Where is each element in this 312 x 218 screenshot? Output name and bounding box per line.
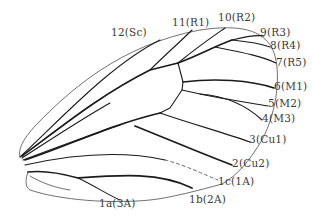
vein-r4 [232, 40, 270, 47]
vein-r345-stem [178, 40, 232, 63]
vein-2a [28, 171, 192, 188]
vein-m1 [183, 80, 274, 88]
vein-r5 [215, 47, 276, 63]
vein-cu-stem [25, 113, 160, 160]
label-m3: 4(M3) [262, 113, 295, 124]
vein-discocellular [160, 63, 183, 113]
vein-basal-1 [22, 103, 110, 158]
vein-r-stem [22, 63, 178, 156]
label-1a: 1c(1A) [218, 176, 254, 187]
label-r5: 7(R5) [276, 57, 306, 68]
vein-3a [30, 176, 70, 190]
vein-sc [20, 40, 160, 157]
label-r2: 10(R2) [218, 12, 255, 23]
label-3a: 1a(3A) [99, 198, 136, 209]
label-cu2: 2(Cu2) [232, 158, 270, 169]
vein-m2 [182, 90, 268, 106]
label-cu1: 3(Cu1) [249, 134, 287, 145]
label-m2: 5(M2) [268, 98, 301, 109]
vein-1a [25, 155, 165, 165]
label-r1: 11(R1) [172, 17, 209, 28]
vein-1a-dashed [165, 160, 218, 180]
vein-cu1 [160, 113, 250, 142]
label-r3: 9(R3) [260, 27, 290, 38]
vein-m3 [200, 94, 262, 120]
label-2a: 1b(2A) [189, 194, 226, 205]
label-sc: 12(Sc) [111, 27, 147, 38]
label-m1: 6(M1) [274, 81, 307, 92]
label-r4: 8(R4) [270, 40, 300, 51]
